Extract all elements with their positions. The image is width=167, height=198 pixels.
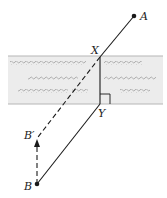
- label-y: Y: [98, 107, 107, 120]
- label-a: A: [139, 10, 148, 23]
- label-b-prime: B′: [23, 129, 35, 142]
- segment-yb: [37, 104, 100, 184]
- segment-ax: [100, 16, 134, 57]
- diagram: A X Y B′ B: [0, 0, 167, 198]
- point-b: [35, 182, 40, 187]
- label-b: B: [23, 180, 32, 193]
- point-a: [132, 14, 137, 19]
- arrowhead-icon: [34, 139, 40, 147]
- diagram-canvas: A X Y B′ B: [0, 0, 167, 198]
- label-x: X: [90, 44, 100, 57]
